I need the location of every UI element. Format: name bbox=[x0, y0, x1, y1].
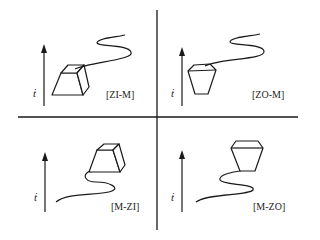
quadrant-label-zo-m: [ZO-M] bbox=[252, 90, 284, 100]
arrowhead-icon bbox=[179, 47, 185, 56]
quadrant-label-m-zi: [M-ZI] bbox=[111, 202, 139, 212]
time-label: ṫ bbox=[33, 88, 36, 99]
frustum-wide-top-icon bbox=[231, 141, 263, 171]
arrowhead-icon bbox=[42, 152, 48, 161]
time-label: ṫ bbox=[34, 192, 37, 203]
arrowhead-icon bbox=[179, 150, 185, 159]
frustum-narrow-top-icon bbox=[52, 65, 89, 95]
quadrant-label-m-zo: [M-ZO] bbox=[253, 202, 285, 212]
arrowhead-icon bbox=[41, 44, 47, 53]
quadrant-label-zi-m: [ZI-M] bbox=[106, 90, 134, 100]
frustum-wide-top-icon bbox=[188, 64, 216, 94]
time-label: ṫ bbox=[171, 88, 174, 99]
trajectory-curve bbox=[205, 34, 264, 66]
frustum-narrow-top-icon bbox=[89, 144, 125, 172]
quadrant-m-zo bbox=[179, 141, 263, 212]
trajectory-curve bbox=[196, 170, 253, 202]
trajectory-curve bbox=[56, 171, 115, 202]
time-label: ṫ bbox=[171, 192, 174, 203]
trajectory-curve bbox=[75, 35, 131, 69]
